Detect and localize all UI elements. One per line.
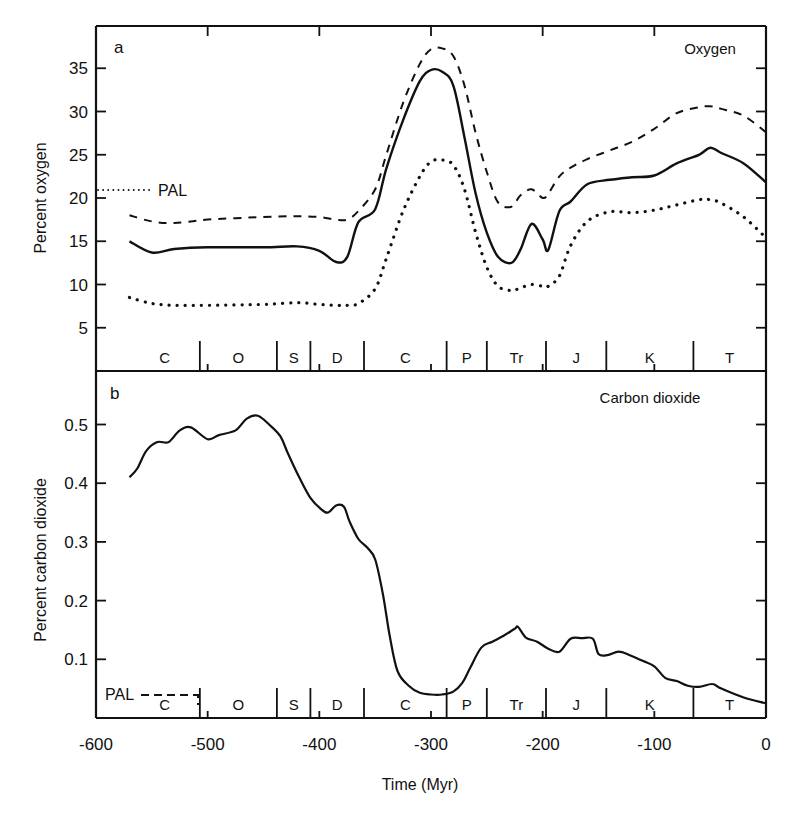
x-tick-label: -300 (414, 735, 448, 754)
panel-a-frame (96, 26, 766, 371)
x-axis-ticks: -600-500-400-300-200-1000 (79, 735, 771, 754)
y-axis-ticks-co2: 0.10.20.30.40.5 (64, 416, 766, 670)
period-label: Tr (510, 349, 524, 366)
period-label: S (289, 349, 299, 366)
x-tick-label: -100 (637, 735, 671, 754)
y-tick-label: 0.2 (64, 592, 88, 611)
figure: 5101520253035 0.10.20.30.40.5 -600-500-4… (0, 0, 795, 815)
period-strip-co2: COSDCPTrJKT (159, 688, 734, 718)
y-tick-label: 0.1 (64, 650, 88, 669)
y-tick-label: 35 (69, 59, 88, 78)
panel-label-b: b (110, 384, 119, 403)
y-axis-label-co2: Percent carbon dioxide (32, 478, 49, 642)
pal-label-co2: PAL (105, 686, 134, 703)
y-tick-label: 5 (79, 319, 88, 338)
y-tick-label: 20 (69, 189, 88, 208)
y-tick-label: 0.3 (64, 533, 88, 552)
panel-b-frame (96, 371, 766, 718)
period-label: C (159, 696, 170, 713)
period-label: J (572, 696, 580, 713)
period-label: J (572, 349, 580, 366)
period-label: C (159, 349, 170, 366)
top-axis-ticks (208, 26, 655, 36)
oxygen-upper-bound-line (130, 47, 767, 223)
panel-title-co2: Carbon dioxide (600, 389, 701, 406)
period-label: T (725, 696, 734, 713)
y-tick-label: 0.4 (64, 474, 88, 493)
period-label: O (233, 696, 245, 713)
oxygen-best-estimate-line (130, 69, 767, 263)
pal-label-oxygen: PAL (158, 182, 187, 199)
y-tick-label: 30 (69, 103, 88, 122)
y-tick-label: 25 (69, 146, 88, 165)
y-tick-label: 0.5 (64, 416, 88, 435)
period-label: Tr (510, 696, 524, 713)
period-label: D (332, 349, 343, 366)
x-tick-label: -200 (526, 735, 560, 754)
oxygen-lower-bound-line (130, 160, 767, 306)
period-label: K (645, 349, 655, 366)
y-tick-label: 10 (69, 276, 88, 295)
period-label: P (462, 349, 472, 366)
co2-line (130, 415, 767, 703)
period-strip-oxygen: COSDCPTrJKT (159, 341, 734, 371)
period-label: K (645, 696, 655, 713)
x-tick-label: 0 (761, 735, 770, 754)
period-label: C (400, 349, 411, 366)
period-label: P (462, 696, 472, 713)
period-label: T (725, 349, 734, 366)
x-tick-label: -400 (302, 735, 336, 754)
x-tick-label: -600 (79, 735, 113, 754)
period-label: O (233, 349, 245, 366)
period-label: S (289, 696, 299, 713)
x-axis-label: Time (Myr) (382, 776, 459, 793)
y-axis-label-oxygen: Percent oxygen (32, 142, 49, 253)
panel-title-oxygen: Oxygen (684, 40, 736, 57)
panel-label-a: a (114, 38, 124, 57)
y-tick-label: 15 (69, 232, 88, 251)
x-tick-label: -500 (191, 735, 225, 754)
period-label: D (332, 696, 343, 713)
period-label: C (400, 696, 411, 713)
